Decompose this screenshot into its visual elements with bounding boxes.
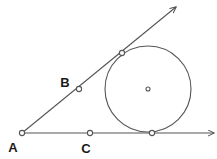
point-marker-tangent-upper <box>119 50 124 55</box>
geometry-diagram: ABC <box>0 0 217 159</box>
geometry-canvas: ABC <box>0 0 217 159</box>
point-marker-A <box>19 130 24 135</box>
point-label-b: B <box>60 75 69 90</box>
points-group <box>19 50 154 135</box>
point-marker-center <box>146 87 150 91</box>
ray-upper-tangent <box>22 7 176 133</box>
rays-group <box>22 7 214 133</box>
point-label-c: C <box>81 141 91 156</box>
point-marker-C <box>87 130 92 135</box>
point-label-a: A <box>8 140 18 155</box>
point-marker-tangent-lower <box>149 130 154 135</box>
point-marker-B <box>76 86 81 91</box>
